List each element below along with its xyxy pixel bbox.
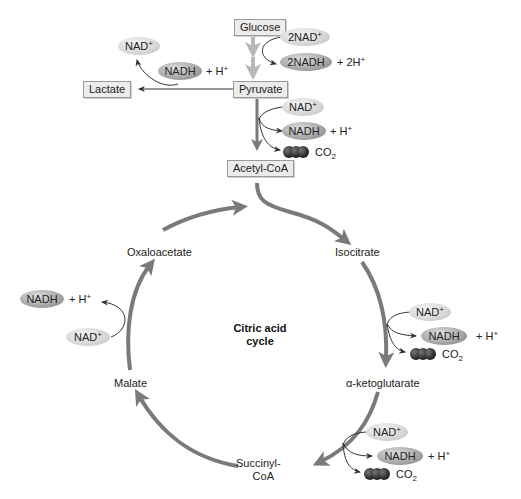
glycolysis-nad-curve [262,37,282,64]
malate-h-label: + H+ [69,292,91,306]
lactate-h-label: + H+ [206,64,228,78]
glycolysis-2h-label: + 2H+ [337,55,365,69]
succinyl-coa-label: Succinyl-CoA [236,457,281,483]
ketoglutarate-branch-curves [343,432,372,472]
isocitrate-label: Isocitrate [335,245,380,259]
oxaloacetate-label: Oxaloacetate [127,245,192,259]
glycolysis-2nad-oval: 2NAD+ [280,28,330,46]
cycle-arc-acetyl-isocitrate [257,183,345,240]
isocitrate-branch-curves [387,312,416,352]
ketoglutarate-nad-oval: NAD+ [366,423,408,441]
glucose-label: Glucose [240,21,280,33]
ketoglutarate-nadh-oval: NADH [377,447,423,465]
pyruvate-box: Pyruvate [233,81,288,98]
pyruvate-h-label: + H+ [330,124,352,138]
lactate-box: Lactate [83,81,131,98]
cycle-arc-oxaloacetate-citrate [163,207,240,230]
malate-label: Malate [114,376,147,390]
pathway-arrows [0,0,521,499]
glucose-box: Glucose [234,19,286,36]
pyruvate-co2-molecule-icon [283,146,309,158]
cycle-title: Citric acidcycle [225,322,295,348]
ketoglutarate-co2-label: CO2 [396,467,417,481]
pyruvate-nadh-oval: NADH [282,122,326,140]
pyruvate-branch-curves [259,107,282,150]
isocitrate-nadh-oval: NADH [421,327,467,345]
isocitrate-co2-molecule-icon [410,348,436,360]
isocitrate-nad-oval: NAD+ [409,303,451,321]
glycolysis-2nadh-oval: 2NADH [280,53,332,71]
acetyl-coa-box: Acetyl-CoA [227,160,294,177]
isocitrate-co2-label: CO2 [442,347,463,361]
cycle-arc-isocitrate-ketoglutarate [362,262,386,360]
cycle-arc-malate-oxaloacetate [128,265,150,370]
isocitrate-h-label: + H+ [476,329,498,343]
lactate-label: Lactate [89,83,125,95]
lactate-nadh-oval: NADH [158,62,202,80]
cycle-arc-succinyl-malate [139,396,238,466]
alpha-ketoglutarate-label: α-ketoglutarate [346,376,420,390]
acetyl-coa-label: Acetyl-CoA [233,162,288,174]
lactate-nad-oval: NAD+ [118,37,160,55]
ketoglutarate-h-label: + H+ [428,449,450,463]
malate-nadh-oval: NADH [20,290,64,308]
pyruvate-co2-label: CO2 [315,145,336,159]
pyruvate-label: Pyruvate [239,83,282,95]
malate-nad-oval: NAD+ [66,328,110,346]
pyruvate-nad-oval: NAD+ [282,98,324,116]
ketoglutarate-co2-molecule-icon [364,468,390,480]
